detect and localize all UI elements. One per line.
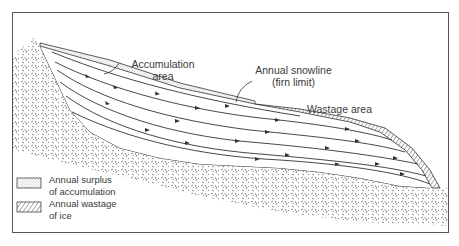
snowline-label-line1: Annual snowline (246, 64, 341, 76)
legend-wastage-line1: Annual wastage (49, 198, 117, 210)
legend-wastage-line2: of ice (49, 210, 117, 222)
accumulation-label-line1: Accumulation (118, 58, 208, 70)
snowline-label: Annual snowline (firn limit) (246, 64, 341, 88)
wastage-area-label: Wastage area (307, 103, 372, 115)
legend-accumulation-line2: of accumulation (49, 186, 116, 198)
accumulation-label-line2: area (118, 70, 208, 82)
legend-swatch-accumulation (17, 178, 41, 188)
wastage-label-text: Wastage area (307, 103, 372, 115)
legend-item-wastage: Annual wastage of ice (49, 198, 117, 222)
glacier-diagram: Accumulation area Annual snowline (firn … (0, 0, 459, 246)
legend-swatch-wastage (17, 202, 41, 212)
snowline-label-line2: (firn limit) (246, 76, 341, 88)
accumulation-area-label: Accumulation area (118, 58, 208, 82)
legend-accumulation-line1: Annual surplus (49, 174, 116, 186)
legend-item-accumulation: Annual surplus of accumulation (49, 174, 116, 198)
